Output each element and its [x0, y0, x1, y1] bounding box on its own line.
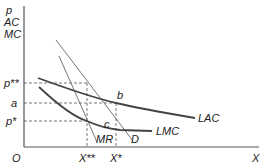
- lac-label: LAC: [198, 112, 219, 124]
- demand-label: D: [131, 133, 139, 145]
- economics-diagram: p AC MC p** a p* LAC LMC D MR b c O X** …: [0, 0, 265, 168]
- x-axis-label: X: [251, 152, 260, 164]
- lmc-label: LMC: [156, 125, 179, 137]
- quantity-label-x-star: X*: [109, 152, 122, 164]
- price-label-p-star: p*: [5, 115, 17, 127]
- point-b-label: b: [117, 89, 123, 101]
- origin-label: O: [12, 152, 21, 164]
- y-axis-label-mc: MC: [4, 28, 21, 40]
- price-label-p-double-star: p**: [3, 77, 19, 89]
- lmc-curve: [39, 87, 152, 131]
- y-axis-label-p: p: [5, 4, 12, 16]
- y-axis-label-ac: AC: [3, 16, 19, 28]
- mr-label: MR: [96, 133, 113, 145]
- price-label-a: a: [11, 97, 17, 109]
- quantity-label-x-double-star: X**: [78, 152, 96, 164]
- point-c-label: c: [104, 118, 110, 130]
